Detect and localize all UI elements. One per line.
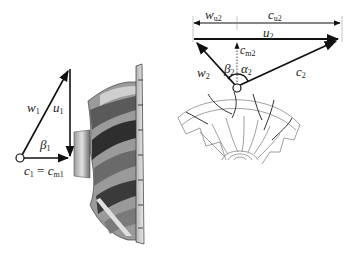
label-alpha2-text: α [241,61,248,76]
label-w1-sub: 1 [36,107,40,116]
impeller-front-sketch [178,92,300,164]
inlet-origin [16,154,24,162]
label-beta1: β1 [40,138,50,153]
label-c2-sub: 2 [302,71,306,80]
label-alpha2-sub: 2 [248,68,252,77]
label-w1: w1 [27,101,40,116]
label-beta2: β2 [224,62,234,77]
label-cm2: cm2 [240,44,256,58]
label-c2: c2 [296,65,306,80]
label-u1-sub: 1 [60,107,64,116]
label-w2-text: w [197,65,206,80]
label-wu2-sub: u2 [214,14,222,23]
label-wu2-text: w [205,7,214,22]
label-u2: u2 [263,26,274,41]
label-alpha2: α2 [241,62,252,77]
outlet-origin [233,84,241,92]
label-c1-eq-cm1: c1 = cm1 [24,164,64,179]
label-cu2: cu2 [268,8,282,23]
label-cm1-sub: m1 [53,170,63,179]
label-w1-text: w [27,100,36,115]
label-beta1-sub: 1 [46,144,50,153]
impeller-side-view [74,64,144,244]
label-w2: w2 [197,66,210,81]
label-w2-sub: 2 [206,72,210,81]
diagram-canvas [0,0,360,255]
label-u1: u1 [53,101,64,116]
label-cm2-sub: m2 [245,49,255,58]
label-equals: = [34,163,48,178]
label-wu2: wu2 [205,8,222,23]
label-beta2-sub: 2 [230,68,234,77]
label-cu2-sub: u2 [274,14,282,23]
label-u2-sub: 2 [270,32,274,41]
